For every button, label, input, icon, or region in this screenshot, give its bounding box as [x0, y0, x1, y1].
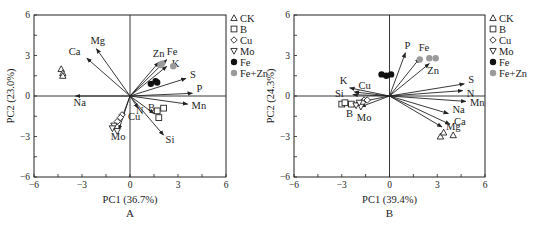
square-marker — [161, 105, 167, 111]
y-tick-label: 0 — [285, 91, 290, 101]
loading-label: S — [190, 69, 196, 80]
loading-label: Zn — [153, 48, 165, 59]
y-tick-label: 3 — [25, 51, 30, 61]
loading-arrow-fe — [390, 58, 420, 96]
triangle-up-marker — [450, 132, 456, 138]
triangle-down-marker — [490, 48, 496, 54]
x-tick-label: 6 — [483, 180, 488, 190]
loading-arrow-n — [390, 91, 463, 96]
legend-label: B — [240, 24, 247, 35]
loading-label: Si — [335, 88, 344, 99]
loading-label: B — [346, 108, 353, 119]
x-tick-label: −6 — [289, 180, 299, 190]
black-circle-marker — [152, 78, 158, 84]
legend-label: Cu — [499, 35, 512, 46]
loading-arrow-mg — [96, 49, 130, 96]
legend: CKBCuMoFeFe+Zn — [231, 13, 269, 79]
legend-label: Fe — [499, 57, 510, 68]
biplot-figure: −6−3036−6−3036PC1 (36.7%)PC2 (23.0%)ANaC… — [0, 0, 535, 225]
triangle-down-marker — [231, 48, 237, 54]
loading-arrow-s — [390, 84, 465, 96]
loading-label: Mo — [357, 112, 372, 123]
loading-label: K — [340, 75, 348, 86]
diamond-marker — [231, 37, 237, 43]
gray-circle-marker — [231, 70, 237, 76]
loading-arrow-k — [130, 66, 167, 96]
x-tick-label: 6 — [224, 180, 229, 190]
legend-label: Mo — [499, 46, 514, 57]
x-tick-label: 3 — [176, 180, 181, 190]
black-circle-marker — [490, 59, 496, 65]
loading-label: Si — [166, 134, 175, 145]
x-tick-label: 0 — [128, 180, 133, 190]
black-circle-marker — [231, 59, 237, 65]
diamond-marker — [490, 37, 496, 43]
y-axis-label: PC2 (23.0%) — [5, 68, 17, 123]
square-marker — [231, 26, 237, 32]
legend-label: Cu — [240, 35, 253, 46]
y-tick-label: 3 — [285, 51, 290, 61]
y-tick-label: −3 — [280, 132, 290, 142]
y-tick-label: −3 — [20, 132, 30, 142]
loading-label: Mn — [192, 100, 207, 111]
loading-arrow-mg — [390, 96, 443, 127]
triangle-up-marker — [231, 15, 237, 21]
loading-label: Na — [74, 97, 87, 108]
y-tick-label: −6 — [280, 172, 290, 182]
loading-label: Na — [452, 104, 465, 115]
panel-label: A — [126, 207, 134, 219]
triangle-up-marker — [490, 15, 496, 21]
panel-label: B — [386, 207, 393, 219]
loading-label: P — [196, 83, 202, 94]
loading-arrow-mn — [390, 96, 466, 101]
legend-label: Fe+Zn — [499, 68, 528, 79]
y-tick-label: 6 — [25, 10, 30, 20]
loading-label: Cu — [358, 80, 371, 91]
square-marker — [342, 100, 348, 106]
loading-label: Cu — [128, 111, 141, 122]
x-tick-label: −6 — [29, 180, 39, 190]
gray-circle-marker — [490, 70, 496, 76]
x-tick-label: 0 — [387, 180, 392, 190]
loading-label: P — [404, 40, 410, 51]
loading-label: Ca — [69, 46, 81, 57]
figure: −6−3036−6−3036PC1 (36.7%)PC2 (23.0%)ANaC… — [0, 0, 535, 225]
x-axis-label: PC1 (39.4%) — [362, 194, 417, 206]
y-tick-label: −6 — [20, 172, 30, 182]
loading-label: Zn — [427, 65, 439, 76]
black-circle-marker — [388, 71, 394, 77]
gray-circle-marker — [170, 63, 176, 69]
legend-label: B — [499, 24, 506, 35]
gray-circle-marker — [417, 56, 423, 62]
gray-circle-marker — [159, 60, 165, 66]
square-marker — [490, 26, 496, 32]
y-tick-label: 6 — [285, 10, 290, 20]
loading-label: Fe — [419, 42, 430, 53]
loading-arrow-na — [390, 96, 449, 114]
loading-label: Mn — [470, 97, 485, 108]
loading-label: Fe — [167, 46, 178, 57]
x-tick-label: −3 — [337, 180, 347, 190]
biplot-panel-a: −6−3036−6−3036PC1 (36.7%)PC2 (23.0%)ANaC… — [5, 10, 269, 219]
loading-arrow-mn — [130, 96, 188, 104]
loading-label: S — [468, 74, 474, 85]
loading-arrow-ca — [87, 58, 130, 96]
x-axis-label: PC1 (36.7%) — [103, 194, 158, 206]
biplot-panel-b: −6−3036−6−3036PC1 (39.4%)PC2 (24.3%)BPFe… — [265, 10, 528, 219]
legend-label: CK — [499, 13, 514, 24]
loading-label: Mg — [446, 121, 461, 132]
y-axis-label: PC2 (24.3%) — [265, 68, 277, 123]
legend-label: CK — [240, 13, 255, 24]
legend: CKBCuMoFeFe+Zn — [490, 13, 528, 79]
legend-label: Fe — [240, 57, 251, 68]
loading-arrow-ca — [390, 96, 450, 124]
x-tick-label: −3 — [77, 180, 87, 190]
legend-label: Mo — [240, 46, 255, 57]
gray-circle-marker — [426, 55, 432, 61]
x-tick-label: 3 — [435, 180, 440, 190]
square-marker — [156, 115, 162, 121]
loading-label: Mg — [90, 35, 105, 46]
y-tick-label: 0 — [25, 91, 30, 101]
gray-circle-marker — [432, 55, 438, 61]
square-marker — [154, 108, 160, 114]
